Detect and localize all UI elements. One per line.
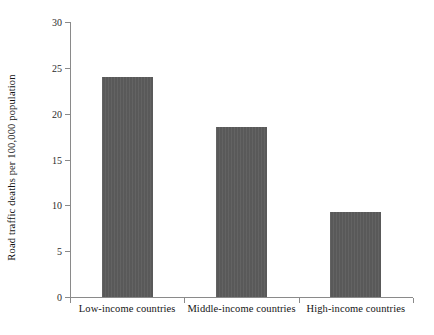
bar [216,127,267,297]
x-axis-label: Low-income countries [79,303,176,314]
y-tick-label: 15 [52,154,62,165]
x-axis-label: High-income countries [307,303,406,314]
y-tick-label: 0 [57,292,62,303]
bar-series [70,22,413,297]
x-axis-label: Middle-income countries [187,303,295,314]
bar [102,77,153,297]
x-axis-line [70,297,413,298]
y-tick-label: 30 [52,17,62,28]
y-tick-label: 10 [52,200,62,211]
bar [330,212,381,297]
x-tick-mark [413,298,414,303]
y-tick-label: 5 [57,246,62,257]
y-axis-title: Road traffic deaths per 100,000 populati… [0,0,22,335]
bar-chart-figure: Road traffic deaths per 100,000 populati… [0,0,434,335]
y-tick-label: 20 [52,108,62,119]
x-axis-category-labels: Low-income countriesMiddle-income countr… [70,303,413,321]
plot-area: 051015202530 [70,22,413,297]
y-tick-label: 25 [52,62,62,73]
